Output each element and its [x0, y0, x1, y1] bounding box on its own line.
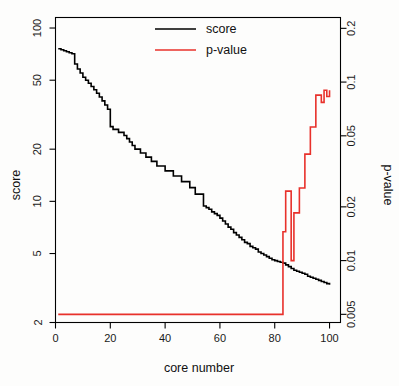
y-axis-left-tick-label: 2 — [32, 319, 44, 325]
y-axis-left-tick-label: 10 — [32, 195, 44, 207]
y-axis-right-tick-label: 0.2 — [346, 21, 358, 36]
chart-svg: 10050201052 0.20.10.050.020.010.005 0204… — [0, 0, 399, 386]
x-axis-tick-label: 100 — [320, 332, 338, 344]
y-axis-left-tick-label: 5 — [32, 250, 44, 256]
y-axis-left-tick-label: 20 — [32, 143, 44, 155]
y-axis-right-tick-label: 0.02 — [346, 196, 358, 217]
x-axis-title: core number — [164, 361, 234, 375]
x-axis-tick-label: 40 — [159, 332, 171, 344]
legend-label-score: score — [206, 22, 237, 36]
y-axis-right-tick-label: 0.05 — [346, 125, 358, 146]
legend-label-pvalue: p-value — [206, 43, 247, 57]
y-axis-right-title: p-value — [381, 165, 395, 206]
x-axis-tick-label: 60 — [214, 332, 226, 344]
y-axis-right-tick-label: 0.005 — [346, 301, 358, 329]
y-axis-left-tick-label: 100 — [32, 19, 44, 37]
y-axis-left-title: score — [9, 170, 23, 201]
y-axis-right-tick-label: 0.01 — [346, 250, 358, 271]
chart-background — [0, 0, 399, 386]
y-axis-left-tick-label: 50 — [32, 74, 44, 86]
chart-container: 10050201052 0.20.10.050.020.010.005 0204… — [0, 0, 399, 386]
x-axis-tick-label: 80 — [269, 332, 281, 344]
x-axis-tick-label: 20 — [104, 332, 116, 344]
y-axis-right-tick-label: 0.1 — [346, 74, 358, 89]
x-axis-tick-label: 0 — [52, 332, 58, 344]
